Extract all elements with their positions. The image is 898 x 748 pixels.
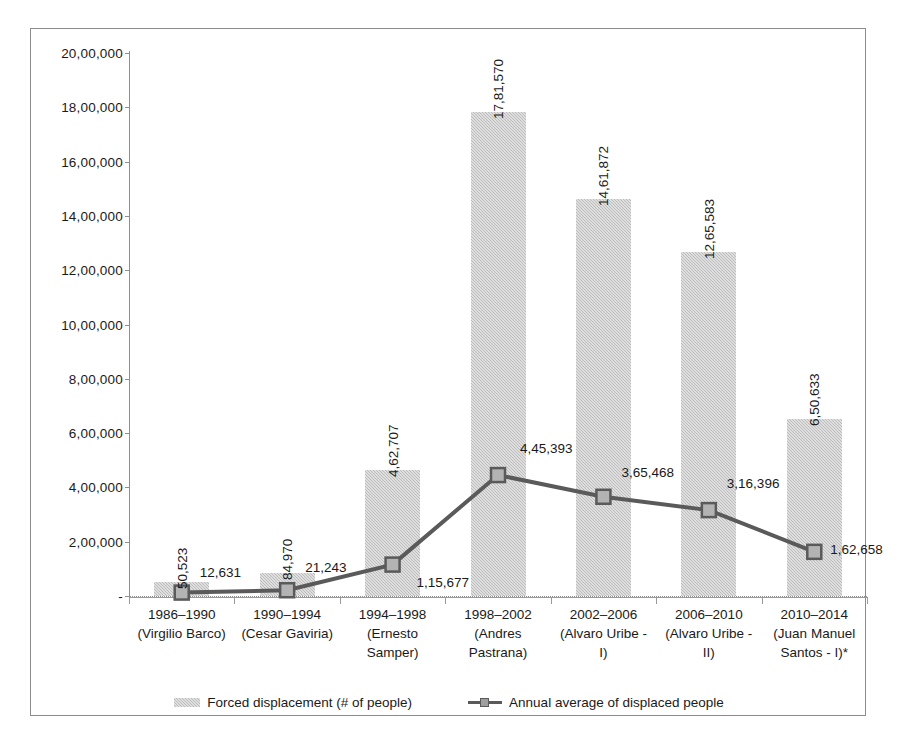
- legend-item-annual-average[interactable]: Annual average of displaced people: [468, 695, 724, 710]
- x-axis-category-line: 2010–2014: [762, 605, 867, 624]
- legend-item-forced-displacement[interactable]: Forced displacement (# of people): [174, 695, 412, 710]
- x-axis-category-label: 1994–1998(ErnestoSamper): [340, 605, 445, 662]
- x-axis-category-line: Santos - I)*: [762, 643, 867, 662]
- y-axis-tick-label: 16,00,000: [31, 154, 123, 169]
- x-axis-tick-mark: [445, 597, 446, 604]
- x-axis-category-label: 1986–1990(Virgilio Barco): [129, 605, 234, 643]
- chart-frame: -2,00,0004,00,0006,00,0008,00,00010,00,0…: [30, 28, 866, 716]
- x-axis-category-line: 1994–1998: [340, 605, 445, 624]
- line-series-layer: [129, 53, 867, 596]
- x-axis-tick-mark: [340, 597, 341, 604]
- x-axis-category-line: Pastrana): [445, 643, 550, 662]
- x-axis-category-line: (Juan Manuel: [762, 624, 867, 643]
- line-marker[interactable]: [807, 545, 821, 559]
- x-axis-category-line: (Alvaro Uribe -: [656, 624, 761, 643]
- line-square-swatch-icon: [468, 696, 502, 708]
- line-marker[interactable]: [175, 586, 189, 600]
- chart-legend: Forced displacement (# of people) Annual…: [31, 689, 867, 715]
- x-axis-line: [129, 597, 867, 598]
- y-axis-tick-label: 14,00,000: [31, 208, 123, 223]
- x-axis-category-label: 1998–2002(AndresPastrana): [445, 605, 550, 662]
- line-path: [182, 475, 815, 592]
- x-axis-category-line: (Ernesto: [340, 624, 445, 643]
- x-axis-tick-mark: [551, 597, 552, 604]
- x-axis-category-label: 2010–2014(Juan ManuelSantos - I)*: [762, 605, 867, 662]
- y-axis-tick-label: 20,00,000: [31, 46, 123, 61]
- line-marker[interactable]: [702, 503, 716, 517]
- x-axis-category-line: 2006–2010: [656, 605, 761, 624]
- x-axis-category-line: 1986–1990: [129, 605, 234, 624]
- y-axis-tick-label: 2,00,000: [31, 534, 123, 549]
- x-axis-category-line: 1990–1994: [234, 605, 339, 624]
- x-axis-category-line: (Virgilio Barco): [129, 624, 234, 643]
- x-axis-category-label: 2002–2006(Alvaro Uribe -I): [551, 605, 656, 662]
- legend-label-annual-average: Annual average of displaced people: [509, 695, 724, 710]
- y-axis-tick-label: 12,00,000: [31, 263, 123, 278]
- line-marker[interactable]: [596, 490, 610, 504]
- x-axis-category-line: II): [656, 643, 761, 662]
- bar-swatch-icon: [174, 698, 200, 707]
- x-axis-tick-mark: [867, 597, 868, 604]
- x-axis-category-line: (Alvaro Uribe -: [551, 624, 656, 643]
- legend-label-forced-displacement: Forced displacement (# of people): [207, 695, 412, 710]
- x-axis-category-line: I): [551, 643, 656, 662]
- y-axis-tick-label: -: [31, 589, 123, 604]
- x-axis-category-line: 2002–2006: [551, 605, 656, 624]
- y-axis-tick-label: 8,00,000: [31, 371, 123, 386]
- y-axis-tick-label: 10,00,000: [31, 317, 123, 332]
- x-axis-tick-mark: [234, 597, 235, 604]
- x-axis-category-line: (Andres: [445, 624, 550, 643]
- x-axis-tick-mark: [762, 597, 763, 604]
- y-axis-tick-label: 6,00,000: [31, 426, 123, 441]
- x-axis-tick-mark: [656, 597, 657, 604]
- line-marker[interactable]: [280, 583, 294, 597]
- x-axis-tick-mark: [129, 597, 130, 604]
- x-axis-category-label: 1990–1994(Cesar Gaviria): [234, 605, 339, 643]
- x-axis-category-line: Samper): [340, 643, 445, 662]
- x-axis-category-line: (Cesar Gaviria): [234, 624, 339, 643]
- x-axis-category-line: 1998–2002: [445, 605, 550, 624]
- line-marker[interactable]: [491, 468, 505, 482]
- line-marker[interactable]: [386, 558, 400, 572]
- y-axis-tick-label: 18,00,000: [31, 100, 123, 115]
- x-axis-category-label: 2006–2010(Alvaro Uribe -II): [656, 605, 761, 662]
- y-axis-tick-label: 4,00,000: [31, 480, 123, 495]
- plot-area: 50,52384,9704,62,70717,81,57014,61,87212…: [129, 53, 867, 596]
- chart-screenshot: -2,00,0004,00,0006,00,0008,00,00010,00,0…: [0, 0, 898, 748]
